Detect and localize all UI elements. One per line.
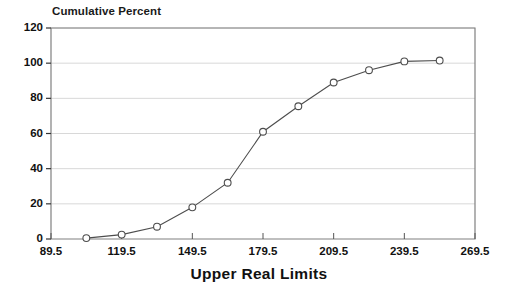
ytick-label: 100 [3, 56, 43, 68]
cumulative-percent-chart: Cumulative Percent 02040608010012089.511… [0, 0, 518, 303]
data-point-marker [260, 128, 267, 135]
ytick-label: 120 [3, 21, 43, 33]
xtick-label: 149.5 [157, 245, 227, 257]
chart-plot-area [0, 0, 518, 303]
ytick-label: 60 [3, 127, 43, 139]
data-point-marker [118, 231, 125, 238]
ytick-label: 40 [3, 162, 43, 174]
data-line-cumulative-percent [86, 61, 439, 239]
data-point-marker [189, 204, 196, 211]
xtick-label: 239.5 [369, 245, 439, 257]
xtick-label: 209.5 [299, 245, 369, 257]
xaxis-title: Upper Real Limits [0, 265, 518, 283]
data-point-marker [330, 79, 337, 86]
ytick-label: 0 [3, 232, 43, 244]
xtick-label: 119.5 [87, 245, 157, 257]
data-point-marker [366, 67, 373, 74]
xtick-label: 179.5 [228, 245, 298, 257]
ytick-label: 20 [3, 197, 43, 209]
data-point-marker [295, 103, 302, 110]
xtick-label: 269.5 [440, 245, 510, 257]
data-point-marker [436, 57, 443, 64]
data-point-marker [401, 58, 408, 65]
data-point-marker [154, 223, 161, 230]
data-point-marker [224, 179, 231, 186]
xtick-label: 89.5 [16, 245, 86, 257]
data-point-marker [83, 235, 90, 242]
ytick-label: 80 [3, 91, 43, 103]
